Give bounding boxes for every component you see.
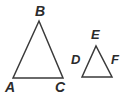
geometry-figure: B A C E D F: [0, 0, 126, 99]
vertex-label-c: C: [55, 80, 65, 94]
vertex-label-b: B: [35, 4, 45, 18]
vertex-label-f: F: [111, 53, 119, 66]
vertex-label-e: E: [91, 28, 100, 41]
vertex-label-d: D: [71, 53, 80, 66]
vertex-label-a: A: [5, 80, 15, 94]
